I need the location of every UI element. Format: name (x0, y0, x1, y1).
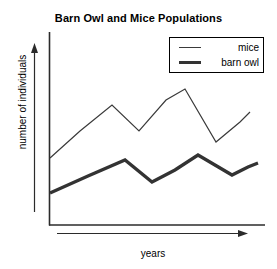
chart-legend: mice barn owl (169, 37, 264, 73)
legend-swatch-barn-owl-icon (170, 61, 210, 64)
x-axis-title-text: years (141, 248, 165, 259)
y-axis-title: number of individuals (12, 27, 32, 177)
chart-figure: Barn Owl and Mice Populations number of … (0, 0, 277, 269)
legend-swatch-mice-icon (170, 47, 210, 48)
series-line-mice (50, 89, 250, 158)
legend-label-mice: mice (210, 42, 265, 53)
legend-item-barn-owl: barn owl (170, 55, 265, 70)
legend-item-mice: mice (170, 40, 265, 55)
x-axis-label-arrow-head (238, 230, 248, 237)
series-line-barn-owl (50, 155, 258, 193)
y-axis-label-arrow-head (31, 43, 38, 53)
x-axis-title: years (58, 243, 248, 261)
legend-label-barn-owl: barn owl (210, 57, 265, 68)
y-axis-title-text: number of individuals (17, 55, 28, 150)
